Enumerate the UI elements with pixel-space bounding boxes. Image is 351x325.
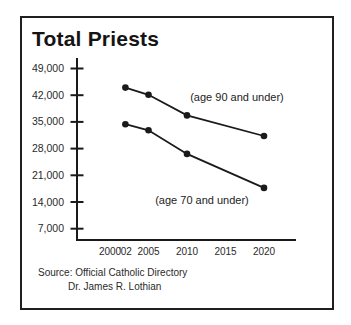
data-point-marker <box>184 112 191 119</box>
x-tick-label: 2020 <box>253 246 276 257</box>
y-tick-label: 14,000 <box>32 196 64 208</box>
chart-figure: 49,00042,00035,00028,00021,00014,0007,00… <box>0 0 351 325</box>
series-annotation-label: (age 90 and under) <box>190 91 284 103</box>
data-point-marker <box>145 127 152 134</box>
y-tick-label: 35,000 <box>32 115 64 127</box>
y-tick-label: 7,000 <box>38 222 64 234</box>
y-tick-label: 42,000 <box>32 89 64 101</box>
data-point-marker <box>122 84 129 91</box>
source-line1: Source: Official Catholic Directory <box>38 266 187 280</box>
data-point-marker <box>122 121 129 128</box>
y-tick-label: 28,000 <box>32 142 64 154</box>
data-point-marker <box>261 133 268 140</box>
data-point-marker <box>145 92 152 99</box>
chart-title: Total Priests <box>32 27 159 51</box>
x-tick-label: 2015 <box>214 246 237 257</box>
y-tick-label: 21,000 <box>32 169 64 181</box>
x-tick-label: 2010 <box>176 246 199 257</box>
data-point-marker <box>184 151 191 158</box>
x-tick-label: 2005 <box>137 246 160 257</box>
series-annotation-label: (age 70 and under) <box>155 194 249 206</box>
series-line-age-70-and-under <box>125 124 264 188</box>
y-tick-label: 49,000 <box>32 62 64 74</box>
source-text: Source: Official Catholic Directory Dr. … <box>38 266 187 293</box>
source-line2: Dr. James R. Lothian <box>68 280 187 294</box>
x-tick-label: '02 <box>119 246 132 257</box>
data-point-marker <box>261 185 268 192</box>
